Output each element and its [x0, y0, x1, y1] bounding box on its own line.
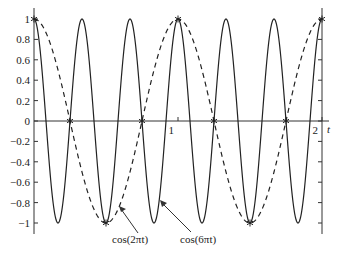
y-tick-label: 0.4	[16, 74, 30, 86]
arrowhead-icon	[160, 200, 167, 207]
y-tick-label: −0.6	[10, 176, 30, 188]
annotations: cos(2πt)cos(6πt)	[112, 200, 216, 246]
y-tick-label: −0.2	[10, 135, 30, 147]
y-tick-label: 0.2	[16, 95, 30, 107]
annotation-cos-2pi-t: cos(2πt)	[112, 233, 148, 246]
chart: 10.80.60.40.20−0.2−0.4−0.6−0.8−112t cos(…	[0, 0, 347, 258]
x-axis-label: t	[327, 123, 331, 135]
y-tick-label: −0.4	[10, 156, 30, 168]
y-tick-label: 0	[25, 115, 31, 127]
x-tick-label: 2	[313, 124, 319, 136]
arrow-cos-6pi-t	[162, 203, 191, 232]
y-tick-label: 0.8	[16, 33, 30, 45]
axes: 10.80.60.40.20−0.2−0.4−0.6−0.8−112t	[10, 8, 331, 234]
y-tick-label: −0.8	[10, 197, 30, 209]
arrow-cos-2pi-t	[121, 209, 138, 233]
y-tick-label: −1	[18, 217, 30, 229]
x-tick-label: 1	[169, 124, 175, 136]
y-tick-label: 1	[25, 13, 31, 25]
y-tick-label: 0.6	[16, 54, 30, 66]
annotation-cos-6pi-t: cos(6πt)	[180, 233, 216, 246]
